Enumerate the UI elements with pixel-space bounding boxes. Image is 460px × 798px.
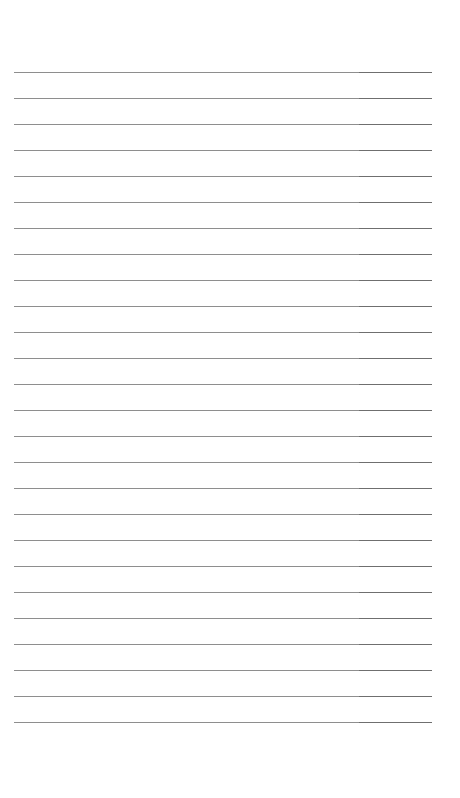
ruled-line-right-segment	[359, 722, 432, 723]
ruled-line	[14, 280, 432, 281]
ruled-line	[14, 150, 432, 151]
ruled-line-right-segment	[359, 150, 432, 151]
ruled-line-main-segment	[14, 332, 359, 333]
ruled-line-main-segment	[14, 176, 359, 177]
ruled-line-main-segment	[14, 488, 359, 489]
ruled-line-main-segment	[14, 72, 359, 73]
ruled-line-main-segment	[14, 384, 359, 385]
ruled-line-right-segment	[359, 72, 432, 73]
ruled-line	[14, 176, 432, 177]
ruled-line-main-segment	[14, 462, 359, 463]
ruled-line-main-segment	[14, 436, 359, 437]
ruled-line-main-segment	[14, 540, 359, 541]
ruled-line-right-segment	[359, 228, 432, 229]
ruled-line-main-segment	[14, 566, 359, 567]
ruled-line	[14, 228, 432, 229]
ruled-line	[14, 722, 432, 723]
ruled-line-main-segment	[14, 280, 359, 281]
ruled-line-main-segment	[14, 514, 359, 515]
ruled-line-main-segment	[14, 410, 359, 411]
ruled-line	[14, 618, 432, 619]
ruled-line	[14, 306, 432, 307]
ruled-line	[14, 202, 432, 203]
ruled-line-main-segment	[14, 98, 359, 99]
ruled-line-main-segment	[14, 150, 359, 151]
ruled-line-right-segment	[359, 514, 432, 515]
ruled-line-right-segment	[359, 462, 432, 463]
ruled-line-main-segment	[14, 670, 359, 671]
ruled-line	[14, 592, 432, 593]
ruled-line	[14, 72, 432, 73]
ruled-line	[14, 332, 432, 333]
ruled-page	[0, 0, 460, 798]
ruled-line-right-segment	[359, 644, 432, 645]
ruled-line-main-segment	[14, 358, 359, 359]
ruled-line-right-segment	[359, 306, 432, 307]
ruled-line	[14, 644, 432, 645]
ruled-line-right-segment	[359, 358, 432, 359]
ruled-line	[14, 540, 432, 541]
ruled-line	[14, 254, 432, 255]
ruled-line-main-segment	[14, 722, 359, 723]
ruled-line-main-segment	[14, 618, 359, 619]
ruled-line	[14, 98, 432, 99]
ruled-line-right-segment	[359, 332, 432, 333]
ruled-line-right-segment	[359, 592, 432, 593]
ruled-line-right-segment	[359, 696, 432, 697]
ruled-line-right-segment	[359, 254, 432, 255]
ruled-line-main-segment	[14, 228, 359, 229]
ruled-line-right-segment	[359, 618, 432, 619]
ruled-line-main-segment	[14, 124, 359, 125]
ruled-line	[14, 436, 432, 437]
ruled-line-right-segment	[359, 670, 432, 671]
ruled-line	[14, 670, 432, 671]
ruled-line-right-segment	[359, 488, 432, 489]
ruled-line-right-segment	[359, 436, 432, 437]
ruled-line	[14, 566, 432, 567]
ruled-line-main-segment	[14, 644, 359, 645]
ruled-line	[14, 124, 432, 125]
ruled-line	[14, 696, 432, 697]
ruled-line	[14, 462, 432, 463]
ruled-line	[14, 410, 432, 411]
ruled-line-main-segment	[14, 306, 359, 307]
ruled-line-right-segment	[359, 98, 432, 99]
ruled-line	[14, 514, 432, 515]
ruled-line	[14, 384, 432, 385]
ruled-line-main-segment	[14, 696, 359, 697]
ruled-line-right-segment	[359, 280, 432, 281]
ruled-line-main-segment	[14, 592, 359, 593]
ruled-line	[14, 358, 432, 359]
ruled-line-right-segment	[359, 176, 432, 177]
ruled-line-right-segment	[359, 540, 432, 541]
ruled-line-main-segment	[14, 254, 359, 255]
ruled-line-right-segment	[359, 202, 432, 203]
ruled-line-right-segment	[359, 384, 432, 385]
ruled-line-right-segment	[359, 566, 432, 567]
ruled-line-main-segment	[14, 202, 359, 203]
ruled-line-right-segment	[359, 410, 432, 411]
ruled-line-right-segment	[359, 124, 432, 125]
ruled-line	[14, 488, 432, 489]
